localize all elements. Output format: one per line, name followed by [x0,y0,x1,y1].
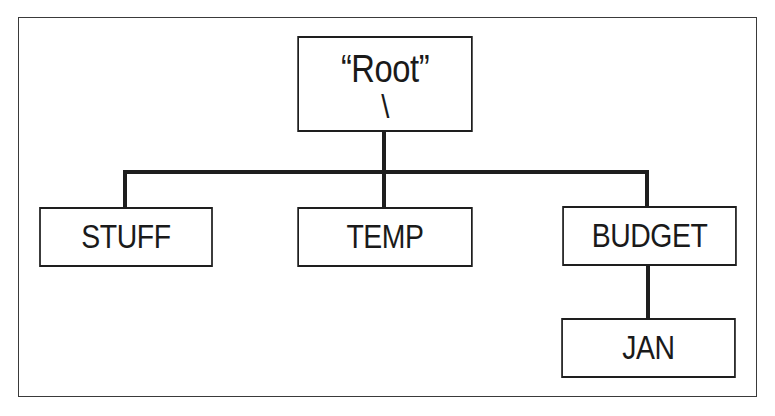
root-separator: \ [381,91,389,121]
stuff-label: STUFF [81,218,170,256]
root-label: “Root” [341,48,429,91]
jan-label: JAN [622,329,674,367]
root-node: “Root” \ [297,36,472,132]
stuff-node: STUFF [39,207,213,267]
budget-label: BUDGET [592,217,708,255]
jan-node: JAN [561,318,736,378]
temp-node: TEMP [297,207,472,267]
budget-node: BUDGET [562,206,737,266]
temp-label: TEMP [346,218,423,256]
